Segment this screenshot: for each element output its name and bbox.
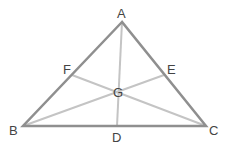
label-E: E	[167, 62, 176, 77]
label-C: C	[209, 123, 218, 138]
triangle-diagram: A B C D E F G	[0, 0, 232, 148]
label-F: F	[63, 62, 71, 77]
label-G: G	[113, 85, 123, 100]
median-AD	[117, 22, 122, 126]
label-B: B	[9, 123, 18, 138]
triangle-ABC	[23, 22, 206, 126]
label-A: A	[117, 6, 126, 21]
label-D: D	[112, 130, 121, 145]
